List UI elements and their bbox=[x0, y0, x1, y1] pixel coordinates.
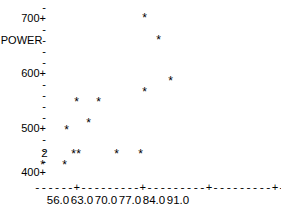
data-point-marker: * bbox=[73, 98, 80, 109]
x-axis-tick-label: 63.0 bbox=[71, 194, 93, 207]
x-axis-tick-labels: 56.063.070.077.084.091.0 bbox=[0, 194, 281, 208]
data-point-marker: * bbox=[155, 36, 162, 47]
x-axis-tick-label: 84.0 bbox=[143, 194, 165, 207]
plot-data-area: ********2****** bbox=[0, 0, 281, 186]
data-point-marker: * bbox=[141, 14, 148, 25]
data-point-marker: * bbox=[63, 126, 70, 137]
data-point-marker: * bbox=[141, 88, 148, 99]
x-axis-tick-label: 70.0 bbox=[95, 194, 117, 207]
x-axis-tick-label: 77.0 bbox=[119, 194, 141, 207]
data-point-marker: * bbox=[95, 98, 102, 109]
data-point-marker: * bbox=[167, 77, 174, 88]
data-point-marker: * bbox=[137, 150, 144, 161]
data-point-marker: * bbox=[61, 161, 68, 172]
data-point-marker: * bbox=[85, 119, 92, 130]
x-axis-tick-label: 56.0 bbox=[47, 194, 69, 207]
x-axis-tick-label: 91.0 bbox=[167, 194, 189, 207]
data-point-marker: * bbox=[113, 150, 120, 161]
data-point-overlap-count: 2 bbox=[41, 148, 48, 159]
scatter-plot: -700+-POWER---600+----500+---400+ ******… bbox=[0, 0, 281, 221]
data-point-marker: * bbox=[39, 161, 46, 172]
data-point-marker: * bbox=[75, 150, 82, 161]
